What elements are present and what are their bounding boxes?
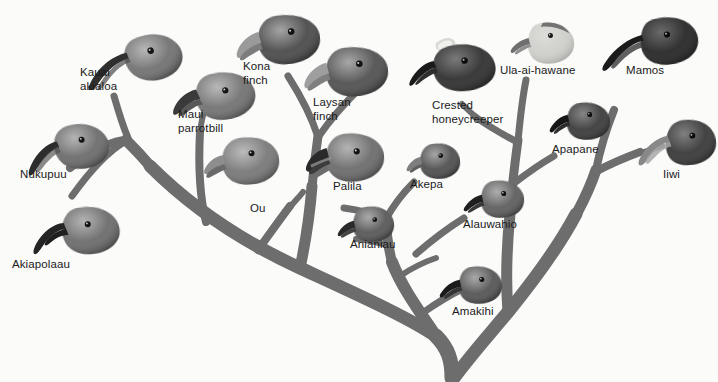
bird-nukupuu bbox=[24, 112, 116, 176]
label-iiwi: Iiwi bbox=[663, 168, 680, 182]
bird-crested-honeycreeper bbox=[404, 34, 500, 96]
label-akiapolaau: Akiapolaau bbox=[12, 258, 70, 272]
bird-ou bbox=[198, 130, 284, 190]
label-crested-honeycreeper: Crested honeycreeper bbox=[432, 99, 504, 126]
label-amakihi: Amakihi bbox=[452, 305, 494, 319]
label-maui-parrotbill: Maui parrotbill bbox=[178, 108, 223, 135]
label-kona-finch: Kona finch bbox=[243, 60, 270, 87]
label-ou: Ou bbox=[250, 202, 266, 216]
label-apapane: Apapane bbox=[552, 143, 599, 157]
bird-laysan-finch bbox=[300, 42, 392, 102]
bird-akepa bbox=[404, 140, 464, 182]
label-laysan-finch: Laysan finch bbox=[313, 96, 351, 123]
bird-alauwahio bbox=[462, 176, 528, 222]
label-palila: Palila bbox=[333, 180, 362, 194]
label-akepa: Akepa bbox=[410, 178, 443, 192]
bird-apapane bbox=[548, 98, 614, 144]
label-kauai-akialoa: Kauai akialoa bbox=[80, 66, 117, 93]
honeycreeper-phylogeny-figure: Kauai akialoa Nukupuu Akiapolaau Maui pa… bbox=[0, 0, 718, 382]
label-anianiau: Anianiau bbox=[350, 238, 396, 252]
label-mamos: Mamos bbox=[626, 64, 664, 78]
label-nukupuu: Nukupuu bbox=[20, 168, 67, 182]
bird-amakihi bbox=[438, 262, 506, 308]
label-alauwahio: Alauwahio bbox=[463, 218, 517, 232]
bird-iiwi bbox=[636, 116, 718, 170]
bird-ula-ai-hawane bbox=[508, 18, 578, 68]
label-ula-ai-hawane: Ula-ai-hawane bbox=[500, 64, 575, 78]
bird-palila bbox=[302, 128, 388, 186]
bird-akiapolaau bbox=[30, 196, 126, 260]
